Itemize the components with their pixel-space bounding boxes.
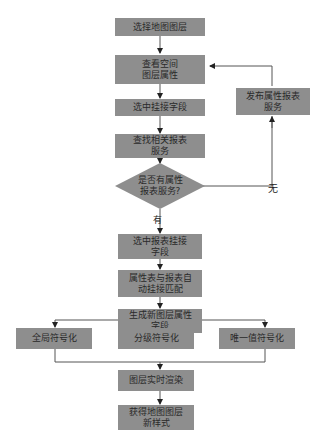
select-map-layer-node: 选择地图图层 [115,18,205,36]
decision-label-line1: 是否有属性 [125,175,195,186]
node-label-line1: 查找相关报表 [133,135,187,146]
edge-label-yes: 有 [153,213,162,226]
node-label-line2: 动挂接匹配 [138,284,183,295]
node-label: 唯一值符号化 [230,333,284,344]
decision-label-line2: 报表服务? [125,186,195,197]
node-label-line1: 获得地图图层 [129,407,183,418]
publish-report-service-node: 发布属性报表 服务 [236,88,310,115]
layer-realtime-render-node: 图层实时渲染 [118,370,194,391]
global-symbolization-node: 全局符号化 [16,328,92,349]
node-label: 全局符号化 [32,333,77,344]
get-new-layer-style-node: 获得地图图层 新样式 [118,405,194,430]
auto-join-match-node: 属性表与报表自 动挂接匹配 [118,270,202,297]
node-label-line2: 新样式 [143,418,170,429]
node-label-line2: 服务 [151,146,169,157]
node-label: 图层实时渲染 [129,375,183,386]
select-join-field-node: 选中挂接字段 [115,99,205,116]
node-label-line1: 发布属性报表 [246,91,300,102]
node-label-line1: 属性表与报表自 [129,273,192,284]
graduated-symbolization-node: 分级符号化 [118,328,194,349]
view-layer-attributes-node: 查看空间 图层属性 [115,55,205,84]
node-label-line2: 服务 [264,102,282,113]
node-label-line1: 选中报表挂接 [133,236,187,247]
unique-value-symbolization-node: 唯一值符号化 [219,328,295,349]
node-label: 选择地图图层 [133,22,187,33]
select-report-join-field-node: 选中报表挂接 字段 [118,234,202,259]
node-label-line1: 查看空间 [142,59,178,70]
node-label: 选中挂接字段 [133,102,187,113]
node-label-line2: 图层属性 [142,70,178,81]
decision-label: 是否有属性 报表服务? [125,175,195,197]
find-report-service-node: 查找相关报表 服务 [115,134,205,158]
node-label: 分级符号化 [134,333,179,344]
node-label-line1: 生成新图层属性 [129,310,192,321]
edge-label-no: 无 [268,180,278,195]
node-label-line2: 字段 [151,247,169,258]
